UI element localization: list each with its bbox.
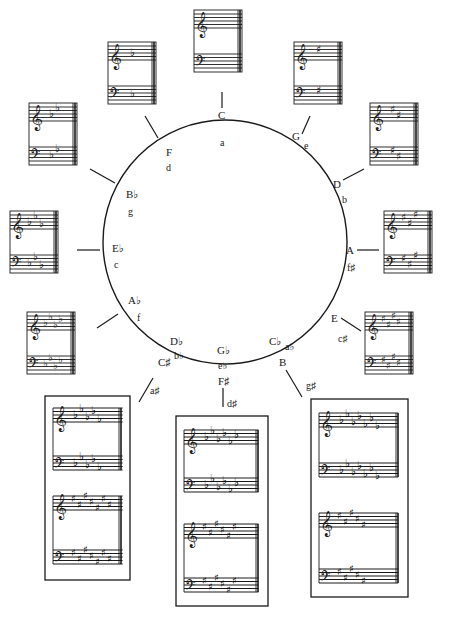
svg-text:♯: ♯ [390,144,395,157]
key-signature-ab: ♭ ♭ ♭ ♭ ♭ ♭ ♭ ♭ [27,311,75,374]
label-major-db: D♭ [170,336,183,347]
svg-text:𝄢: 𝄢 [185,577,195,596]
svg-text:♭: ♭ [369,411,374,424]
svg-text:♯: ♯ [396,357,401,368]
svg-text:♭: ♭ [363,467,368,480]
svg-text:♯: ♯ [95,556,100,567]
svg-text:♯: ♯ [89,550,94,561]
svg-text:♯: ♯ [226,584,231,595]
svg-text:𝄢: 𝄢 [54,549,64,568]
key-signature-g: ♯ ♯ [294,42,342,104]
key-signature-c [194,10,242,72]
svg-text:♭: ♭ [91,404,96,417]
svg-text:♯: ♯ [220,524,225,535]
svg-text:♯: ♯ [361,519,366,530]
label-major-gb: G♭ [217,345,230,356]
svg-text:♭: ♭ [39,217,44,230]
svg-text:♭: ♭ [204,478,209,491]
svg-text:♯: ♯ [220,578,225,589]
svg-text:♯: ♯ [390,103,395,116]
svg-text:♭: ♭ [27,256,32,269]
key-signature-f: ♭ ♭ [108,42,156,104]
svg-text:♭: ♭ [234,476,239,489]
svg-text:♯: ♯ [361,575,366,586]
label-major-d: D [333,179,341,190]
svg-text:♭: ♭ [97,460,102,473]
label-major-g: G [292,131,300,142]
svg-text:♭: ♭ [130,87,135,100]
circle-of-fifths-diagram: 𝄞 𝄢 ♭ ♭ [0,0,453,621]
svg-text:♭: ♭ [228,482,233,495]
svg-text:♭: ♭ [204,430,209,443]
svg-text:♭: ♭ [27,215,32,228]
svg-text:♭: ♭ [351,415,356,428]
svg-text:♯: ♯ [355,569,360,580]
svg-text:♯: ♯ [202,575,207,586]
svg-text:♯: ♯ [413,249,418,262]
label-minor-eb: e♭ [218,360,227,371]
svg-text:𝄢: 𝄢 [54,455,64,474]
svg-text:♭: ♭ [85,410,90,423]
label-minor-bb: b♭ [174,350,184,361]
svg-text:♯: ♯ [208,581,213,592]
label-minor-d: d [166,162,171,173]
svg-text:♯: ♯ [401,211,406,224]
svg-text:𝄞: 𝄞 [185,428,198,454]
svg-text:♭: ♭ [216,432,221,445]
svg-text:♭: ♭ [85,458,90,471]
svg-text:♭: ♭ [49,148,54,161]
svg-text:♯: ♯ [95,502,100,513]
svg-text:♯: ♯ [316,43,321,56]
svg-text:♭: ♭ [369,461,374,474]
svg-text:♭: ♭ [363,417,368,430]
svg-text:♯: ♯ [83,544,88,555]
svg-text:♭: ♭ [91,452,96,465]
svg-text:♭: ♭ [210,472,215,485]
svg-text:♯: ♯ [407,217,412,230]
label-minor-g: g [128,206,133,217]
label-minor-f: f [137,312,140,323]
svg-text:♯: ♯ [349,507,354,518]
label-major-e: E [331,313,338,324]
svg-text:♭: ♭ [222,474,227,487]
svg-text:♭: ♭ [210,424,215,437]
enharmonic-box-gb-fs: 𝄞 𝄢 ♭♭♭♭♭♭ ♭♭♭♭♭♭ 𝄞 𝄢 ♯♯♯♯♯♯ ♯♯♯♯♯♯ [176,416,268,606]
svg-text:𝄞: 𝄞 [54,494,67,520]
svg-text:𝄢: 𝄢 [320,462,330,481]
svg-text:♭: ♭ [357,409,362,422]
label-minor-b: b [342,194,347,205]
svg-text:♯: ♯ [89,496,94,507]
key-circle [103,120,347,364]
svg-text:♭: ♭ [222,426,227,439]
svg-text:♭: ♭ [216,480,221,493]
label-major-bb: B♭ [126,189,139,200]
svg-text:♯: ♯ [396,316,401,327]
svg-text:♯: ♯ [232,575,237,586]
svg-text:♯: ♯ [343,572,348,583]
svg-text:♭: ♭ [375,419,380,432]
svg-text:♯: ♯ [349,563,354,574]
svg-text:♭: ♭ [375,469,380,482]
svg-text:♯: ♯ [407,258,412,271]
label-major-eb: E♭ [112,243,124,254]
svg-text:♭: ♭ [58,313,63,324]
key-signature-e: ♯ ♯ ♯ ♯ ♯ ♯ ♯ ♯ [365,310,413,374]
svg-text:♭: ♭ [345,407,350,420]
label-minor-gs: g♯ [306,380,316,391]
svg-text:♯: ♯ [208,527,213,538]
svg-text:♯: ♯ [413,208,418,221]
svg-text:♯: ♯ [202,521,207,532]
key-signature-a: ♯ ♯ ♯ ♯ ♯ ♯ [384,208,432,273]
svg-text:♭: ♭ [357,459,362,472]
label-major-b: B [279,357,286,368]
svg-text:♭: ♭ [228,434,233,447]
svg-text:♭: ♭ [339,413,344,426]
label-minor-cs: c♯ [338,333,347,344]
label-minor-a: a [220,137,224,148]
svg-text:♭: ♭ [55,142,60,155]
svg-text:♯: ♯ [214,518,219,529]
key-signature-d: ♯ ♯ ♯ ♯ [370,103,418,165]
svg-text:♭: ♭ [55,101,60,114]
svg-text:♭: ♭ [49,107,54,120]
svg-text:♯: ♯ [401,252,406,265]
